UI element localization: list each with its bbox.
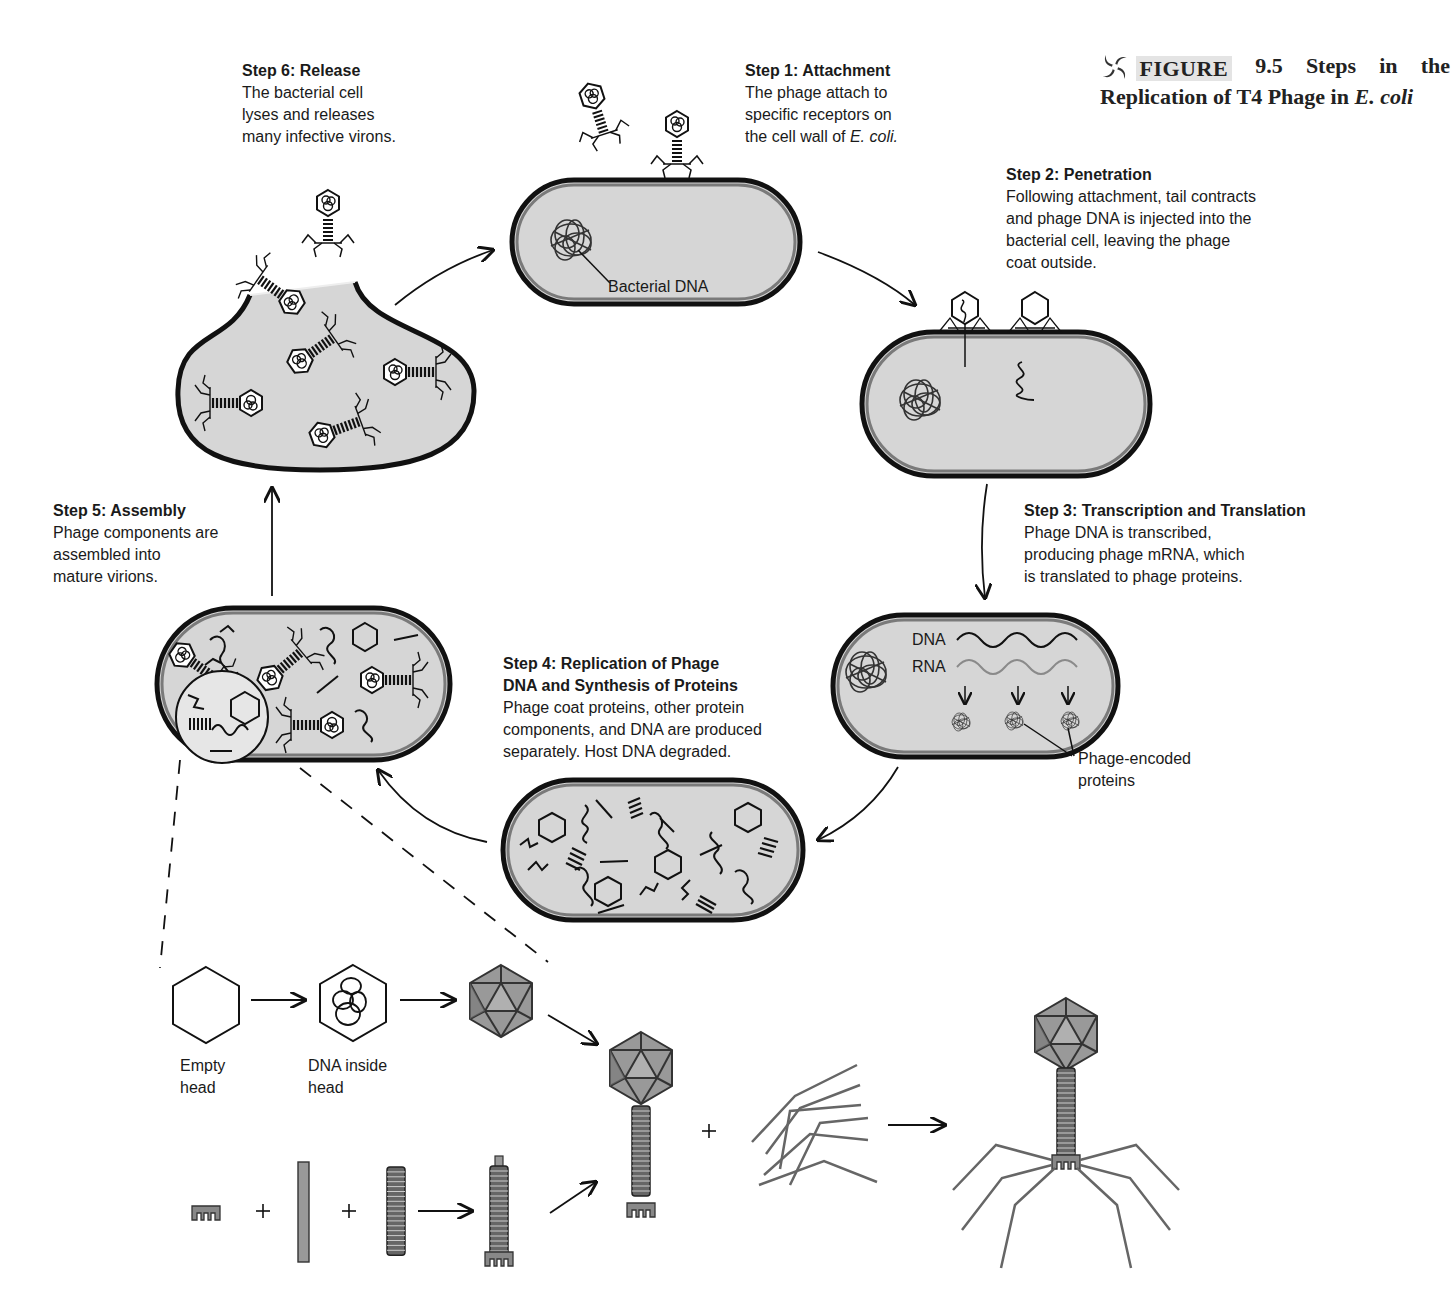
step3-bacterial-cell bbox=[833, 615, 1118, 757]
tail-assembly-icon bbox=[485, 1156, 513, 1266]
step6-lysing-cell bbox=[178, 190, 474, 470]
dna-label: DNA bbox=[912, 631, 946, 648]
empty-head-label: Empty bbox=[180, 1057, 225, 1074]
fiberless-phage-icon bbox=[610, 1032, 672, 1217]
assembly-pathway bbox=[173, 965, 1179, 1268]
complete-t4-phage-icon bbox=[953, 998, 1179, 1268]
bacterial-dna-label: Bacterial DNA bbox=[608, 278, 709, 295]
step4-bacterial-cell bbox=[503, 780, 803, 920]
arrow-step4-to-step5 bbox=[378, 770, 487, 842]
baseplate-icon bbox=[192, 1206, 220, 1220]
empty-head-label: head bbox=[180, 1079, 216, 1096]
magnification-lines bbox=[160, 760, 548, 968]
step2-bacterial-cell bbox=[862, 292, 1150, 476]
sheath-icon bbox=[387, 1167, 405, 1255]
arrow-step6-to-step1 bbox=[395, 250, 493, 305]
tail-fibers-icon bbox=[752, 1065, 877, 1185]
arrow-step1-to-step2 bbox=[818, 252, 915, 305]
capsid-icon bbox=[470, 965, 532, 1037]
replication-diagram: Bacterial DNA bbox=[0, 0, 1454, 1311]
dna-inside-head-label: DNA inside bbox=[308, 1057, 387, 1074]
phage-encoded-proteins-label: Phage-encoded bbox=[1078, 750, 1191, 767]
arrow-step3-to-step4 bbox=[818, 767, 898, 840]
step5-bacterial-cell bbox=[157, 608, 450, 763]
arrow-step2-to-step3 bbox=[982, 484, 987, 598]
phage-encoded-proteins-label: proteins bbox=[1078, 772, 1135, 789]
dna-inside-head-label: head bbox=[308, 1079, 344, 1096]
dna-inside-head-icon bbox=[320, 965, 386, 1041]
attaching-phages bbox=[563, 76, 703, 178]
tail-core-icon bbox=[298, 1162, 309, 1262]
rna-label: RNA bbox=[912, 658, 946, 675]
empty-head-icon bbox=[173, 967, 239, 1043]
